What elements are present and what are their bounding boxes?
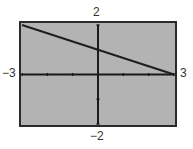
calculator-graph-screen: [0, 0, 193, 149]
